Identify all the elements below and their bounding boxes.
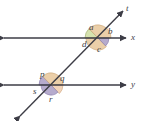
angle-label-p: p [40, 70, 45, 79]
line-label-y: y [131, 80, 135, 89]
angle-label-b: b [108, 27, 113, 36]
line-label-x: x [131, 33, 135, 42]
geometry-figure: t x y a b c d p q r s [0, 0, 142, 121]
angle-label-r: r [49, 95, 53, 104]
angle-label-a: a [89, 23, 94, 32]
angle-label-q: q [60, 74, 65, 83]
angle-label-d: d [82, 40, 87, 49]
angle-label-s: s [33, 87, 37, 96]
geometry-canvas [0, 0, 142, 121]
angle-label-c: c [97, 45, 101, 54]
line-label-t: t [126, 4, 129, 13]
